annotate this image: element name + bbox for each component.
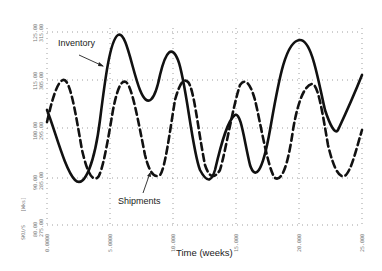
x-tick-label: 20.000 [296,234,302,252]
gridlines [47,28,362,228]
x-axis-title: Time (weeks) [176,247,233,258]
x-tick-label: 15.000 [233,234,239,252]
y-unit-label: SKU/S [20,225,26,240]
y-tick-label-shipments: 285.00 [38,172,44,190]
y-tick-label-shipments: 305.00 [38,72,44,90]
x-tick-label: 25.000 [359,234,365,252]
y-unit-label: [Wks] [20,197,26,212]
annotation-inventory: Inventory [58,38,95,48]
y-tick-label-shipments: 295.00 [38,122,44,140]
y-tick-label-shipments: 275.00 [38,219,44,237]
y-tick-label-shipments: 315.00 [38,24,44,42]
annotation-shipments: Shipments [118,196,161,206]
arrowhead-icon [147,172,151,177]
x-tick-label: 10.000 [170,234,176,252]
arrowhead-icon [98,62,104,67]
x-tick-label: 0.0000 [44,234,50,252]
series-shipments-line [47,80,362,179]
x-tick-label: 5.0000 [107,234,113,252]
